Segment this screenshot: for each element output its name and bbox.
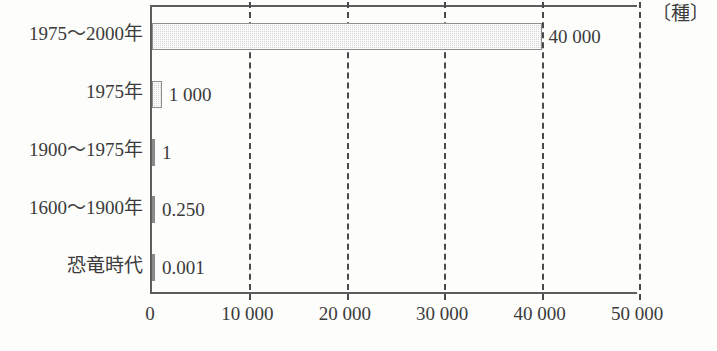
bar-row: 40 000 bbox=[152, 7, 639, 65]
x-axis-tick-label: 10 000 bbox=[221, 300, 273, 328]
bar-value-label: 0.250 bbox=[162, 195, 205, 224]
y-axis-label: 恐竜時代 bbox=[0, 251, 143, 280]
bar-value-label: 40 000 bbox=[549, 22, 601, 51]
y-axis-label: 1900〜1975年 bbox=[0, 135, 143, 164]
x-axis-tick-label: 20 000 bbox=[319, 300, 371, 328]
x-axis-tick-label: 0 bbox=[145, 300, 155, 328]
y-axis-label: 1975〜2000年 bbox=[0, 19, 143, 48]
bar-value-label: 1 000 bbox=[169, 80, 212, 109]
bar-row: 0.250 bbox=[152, 180, 639, 238]
x-axis-tick-label: 40 000 bbox=[513, 300, 565, 328]
bar-series: 40 0001 00010.2500.001 bbox=[152, 7, 637, 292]
y-axis-category-labels: 1975〜2000年1975年1900〜1975年1600〜1900年恐竜時代 bbox=[0, 5, 143, 294]
bar bbox=[152, 254, 155, 281]
x-axis-tick-label: 50 000 bbox=[611, 300, 663, 328]
bar-row: 1 000 bbox=[152, 65, 639, 123]
bar-row: 0.001 bbox=[152, 238, 639, 296]
y-axis-label: 1975年 bbox=[0, 77, 143, 106]
bar bbox=[152, 139, 155, 166]
x-axis-tick-labels: 010 00020 00030 00040 00050 000 bbox=[0, 300, 717, 330]
x-axis-unit-label: 〔種〕 bbox=[652, 0, 709, 28]
bar bbox=[152, 23, 542, 50]
bar-row: 1 bbox=[152, 123, 639, 181]
y-axis-label: 1600〜1900年 bbox=[0, 193, 143, 222]
bar bbox=[152, 81, 162, 108]
gridline-50000 bbox=[639, 2, 641, 300]
bar bbox=[152, 196, 155, 223]
plot-area: 40 0001 00010.2500.001 bbox=[150, 5, 637, 294]
chart-figure: 1975〜2000年1975年1900〜1975年1600〜1900年恐竜時代 … bbox=[0, 0, 717, 351]
x-axis-tick-label: 30 000 bbox=[416, 300, 468, 328]
bar-value-label: 0.001 bbox=[162, 253, 205, 282]
bar-value-label: 1 bbox=[162, 138, 172, 167]
